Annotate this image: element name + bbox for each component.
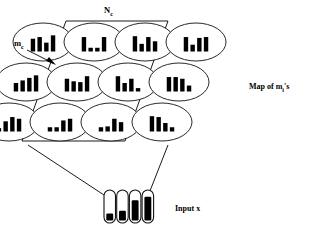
cell-bar [153, 41, 157, 51]
cell-bar [54, 127, 58, 131]
cell-bar [146, 37, 150, 51]
cell-bar [119, 122, 123, 131]
label-mc-base: m [14, 38, 21, 48]
cell-bar [187, 86, 191, 92]
cell-bar [105, 126, 109, 131]
input-capsule-fill [132, 200, 139, 220]
cell-bar [0, 128, 1, 131]
label-map-prefix: Map of m [249, 82, 283, 91]
cell-bar [48, 127, 52, 131]
map-cell [149, 63, 209, 101]
cell-bar [102, 37, 106, 51]
cell-bar [27, 78, 31, 92]
label-nc: Nc [104, 5, 113, 17]
cell-bar [129, 79, 133, 92]
map-cell [132, 103, 192, 141]
left-connector [28, 145, 104, 195]
cell-bar [65, 79, 69, 92]
cell-bar [61, 120, 65, 131]
cell-bar [136, 88, 140, 91]
cell-bar [122, 83, 126, 92]
label-mc-subscript: c [21, 44, 24, 50]
som-diagram: Nc mc Map of mi's Input x [0, 0, 319, 237]
cell-bar [3, 121, 7, 131]
cell-bar [170, 127, 174, 131]
label-map-caption: Map of mi's [249, 82, 289, 93]
map-cell [166, 23, 226, 61]
connector-lines [28, 145, 168, 196]
cell-bar [173, 77, 177, 91]
input-capsule-fill [119, 211, 126, 221]
cell-bar [51, 35, 55, 51]
cell-bar [197, 38, 201, 52]
cell-ellipse [132, 103, 192, 141]
cell-bar [44, 43, 48, 52]
cell-bar [17, 119, 21, 132]
cell-bar [139, 44, 143, 52]
label-nc-subscript: c [110, 11, 113, 17]
cell-bar [82, 37, 86, 51]
cell-bar [20, 80, 24, 91]
cell-bar [14, 83, 18, 92]
cell-ellipse [149, 63, 209, 101]
map-grid [0, 23, 226, 141]
cell-bar [133, 36, 137, 51]
cell-bar [167, 77, 171, 91]
cell-bar [116, 76, 120, 91]
cell-bar [31, 39, 35, 52]
cell-bar [204, 37, 208, 51]
cell-bar [184, 37, 188, 51]
input-capsule-fill [144, 197, 151, 221]
cell-bar [78, 82, 82, 91]
right-connector [148, 145, 168, 196]
cell-bar [10, 117, 14, 131]
cell-bar [71, 81, 75, 91]
diagram-canvas: Nc mc Map of mi's Input x [0, 0, 319, 237]
cell-bar [95, 48, 99, 52]
cell-ellipse [166, 23, 226, 61]
cell-bar [68, 119, 72, 132]
cell-bar [34, 75, 38, 91]
cell-bar [85, 76, 89, 91]
cell-bar [190, 45, 194, 52]
cell-bar [163, 123, 167, 132]
label-map-suffix: 's [284, 82, 289, 91]
cell-bar [112, 119, 116, 132]
cell-bar [150, 116, 154, 131]
input-vector [104, 190, 154, 223]
cell-bar [156, 117, 160, 131]
label-input-caption: Input x [175, 204, 200, 213]
cell-bar [37, 37, 41, 51]
cell-bar [99, 127, 103, 131]
cell-bar [88, 48, 92, 52]
input-capsule-fill [106, 214, 113, 221]
cell-bar [180, 79, 184, 92]
